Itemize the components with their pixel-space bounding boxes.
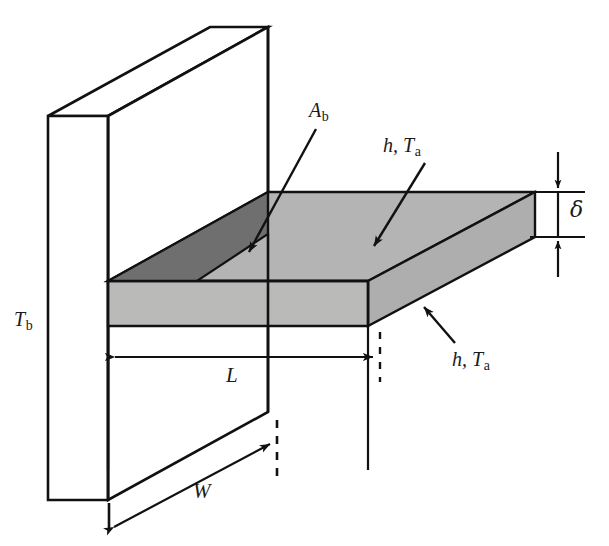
label-h-Ta-side-symbol: h, T [452, 348, 483, 370]
label-convection-top: h, Ta [383, 134, 421, 160]
label-base-area-Ab: Ab [309, 99, 329, 125]
fin-diagram-svg [0, 0, 609, 546]
label-Tb-subscript: b [25, 318, 33, 333]
label-h-Ta-side-subscript: a [483, 358, 490, 373]
h-ta-side-leader-line [424, 307, 455, 343]
label-Tb-symbol: T [14, 308, 25, 330]
fin-front-face [108, 281, 368, 326]
label-Ab-subscript: b [321, 109, 329, 124]
label-Ab-symbol: A [309, 99, 321, 121]
label-convection-side: h, Ta [452, 348, 490, 374]
label-base-temperature-Tb: Tb [14, 308, 33, 334]
label-h-Ta-top-symbol: h, T [383, 134, 414, 156]
label-thickness-delta: δ [570, 197, 583, 222]
label-width-W: W [193, 479, 211, 504]
wall-front-face [48, 116, 108, 500]
figure-canvas: Ab h, Ta h, Ta Tb δ L W [0, 0, 609, 546]
label-h-Ta-top-subscript: a [414, 144, 421, 159]
label-length-L: L [226, 363, 238, 388]
